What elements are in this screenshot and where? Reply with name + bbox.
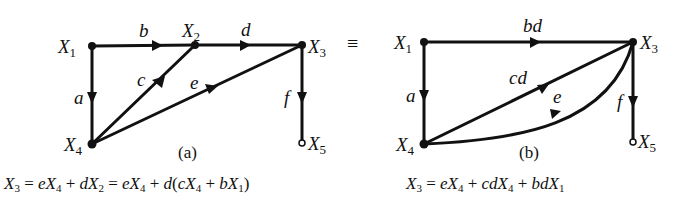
equivalence-symbol: ≡ bbox=[347, 33, 358, 53]
node-b-x1 bbox=[420, 38, 428, 46]
arrowhead-b-icon bbox=[152, 40, 163, 51]
gain-label-e: e bbox=[190, 73, 198, 92]
node-b-x4 bbox=[420, 140, 429, 149]
edge-a-x1-x2 bbox=[92, 45, 195, 46]
gain-label-f: f bbox=[617, 92, 622, 111]
node-label-b-x3: X3 bbox=[640, 33, 658, 55]
signal-flow-graphs bbox=[0, 0, 679, 204]
gain-label-bd: bd bbox=[523, 16, 542, 35]
node-b-x5 bbox=[630, 139, 636, 145]
node-label-b-x1: X1 bbox=[394, 33, 412, 55]
node-label-a-x2: X2 bbox=[182, 21, 200, 43]
arrowhead-d-icon bbox=[240, 40, 251, 51]
node-label-a-x3: X3 bbox=[308, 37, 326, 59]
arrowhead-f-icon bbox=[628, 96, 638, 108]
edge-a-x4-x2 bbox=[92, 45, 195, 144]
arrowhead-a-icon bbox=[87, 92, 97, 104]
arrowhead-a-icon bbox=[419, 90, 429, 102]
arrowhead-f-icon bbox=[297, 92, 307, 104]
gain-label-c: c bbox=[137, 70, 145, 89]
node-a-x5 bbox=[299, 140, 305, 146]
arrowhead-bd-icon bbox=[530, 37, 541, 48]
node-a-x1 bbox=[88, 42, 96, 50]
gain-label-a: a bbox=[406, 86, 416, 105]
edge-a-x4-x3 bbox=[92, 45, 302, 144]
caption-a: (a) bbox=[178, 144, 197, 161]
gain-label-cd: cd bbox=[509, 68, 527, 87]
node-label-b-x5: X5 bbox=[638, 132, 656, 154]
caption-b: (b) bbox=[519, 144, 539, 161]
gain-label-f: f bbox=[284, 88, 289, 107]
arrowhead-e-icon bbox=[550, 109, 561, 119]
node-a-x3 bbox=[298, 41, 306, 49]
node-a-x4 bbox=[88, 140, 97, 149]
node-b-x3 bbox=[629, 38, 637, 46]
equation-a: X3 = eX4 + dX2 = eX4 + d(cX4 + bX1) bbox=[4, 175, 249, 194]
gain-label-a: a bbox=[74, 88, 84, 107]
gain-label-b: b bbox=[139, 21, 149, 40]
gain-label-e: e bbox=[553, 87, 561, 106]
node-label-a-x5: X5 bbox=[308, 134, 326, 156]
node-label-a-x1: X1 bbox=[58, 37, 76, 59]
node-label-b-x4: X4 bbox=[396, 135, 414, 157]
equation-b: X3 = eX4 + cdX4 + bdX1 bbox=[406, 175, 564, 194]
node-label-a-x4: X4 bbox=[64, 135, 82, 157]
gain-label-d: d bbox=[241, 20, 251, 39]
